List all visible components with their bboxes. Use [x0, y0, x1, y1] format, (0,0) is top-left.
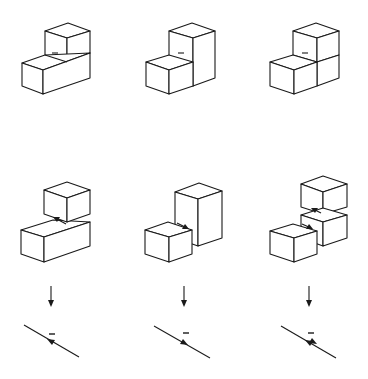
panel-b-separated	[145, 183, 222, 262]
arrow-down-right-icon	[309, 338, 317, 344]
down-arrow-c	[306, 286, 312, 307]
line-symbol-b	[154, 326, 210, 358]
line-symbol-c	[281, 326, 336, 358]
panel-a-separated	[21, 182, 90, 262]
panel-c-assembled	[270, 23, 339, 94]
block-diagram	[0, 0, 368, 379]
panel-a-assembled	[22, 23, 90, 94]
line-symbol-a	[24, 325, 79, 357]
arrow-up-left-icon	[47, 339, 55, 345]
down-arrow-a	[48, 286, 54, 307]
down-arrow-b	[181, 286, 187, 307]
panel-b-assembled	[146, 23, 215, 94]
panel-c-separated	[270, 176, 347, 262]
